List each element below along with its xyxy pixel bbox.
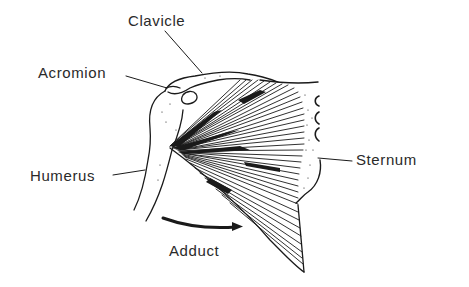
clavicle-leader-line xyxy=(165,31,202,73)
label-clavicle: Clavicle xyxy=(128,13,185,28)
humerus-leader-line xyxy=(113,170,145,175)
label-adduct: Adduct xyxy=(169,243,219,258)
arrowhead-icon xyxy=(232,222,243,231)
acromion-leader-line xyxy=(126,76,167,88)
sternum-leader-line xyxy=(318,158,352,161)
label-acromion: Acromion xyxy=(38,65,106,80)
adduct-arrow xyxy=(163,218,243,231)
shoulder-drawing xyxy=(0,0,469,287)
anatomy-diagram: Clavicle Acromion Humerus Sternum Adduct xyxy=(0,0,469,287)
muscle-fibers-upper xyxy=(170,80,304,264)
label-sternum: Sternum xyxy=(356,152,417,167)
humerus-bone xyxy=(134,91,183,221)
label-humerus: Humerus xyxy=(30,168,95,183)
